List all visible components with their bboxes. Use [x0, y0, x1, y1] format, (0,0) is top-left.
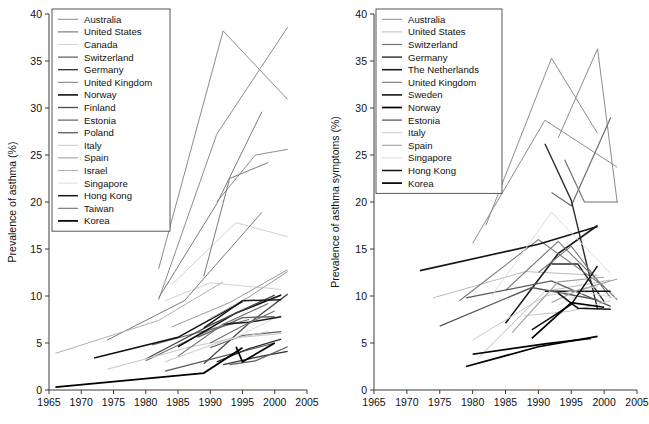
legend-label-poland: Poland	[84, 127, 114, 138]
y-tick-label: 40	[355, 8, 367, 20]
legend-label-united-kingdom: United Kingdom	[408, 77, 476, 88]
x-tick-label: 1975	[102, 396, 126, 408]
y-axis-title: Prevalence of asthma (%)	[6, 142, 18, 263]
x-tick-label: 1985	[166, 396, 190, 408]
legend-label-korea: Korea	[408, 178, 434, 189]
data-line-canada	[165, 283, 281, 301]
legend-label-germany: Germany	[408, 52, 448, 63]
y-tick-label: 25	[30, 149, 42, 161]
x-tick-label: 2000	[263, 396, 287, 408]
plot-canvas: 0510152025303540196519701975198019851990…	[325, 0, 649, 424]
y-tick-label: 15	[30, 243, 42, 255]
y-tick-label: 0	[361, 384, 367, 396]
y-tick-label: 30	[30, 102, 42, 114]
legend-label-singapore: Singapore	[84, 178, 128, 189]
legend-label-estonia: Estonia	[84, 115, 117, 126]
x-tick-label: 1990	[527, 396, 551, 408]
y-tick-label: 5	[36, 337, 42, 349]
legend-label-finland: Finland	[84, 102, 115, 113]
legend-label-israel: Israel	[84, 165, 107, 176]
plot-canvas: 0510152025303540196519701975198019851990…	[0, 0, 325, 424]
data-line-germany	[545, 144, 598, 309]
legend-label-united-states: United States	[408, 26, 466, 37]
legend-label-sweden: Sweden	[408, 89, 443, 100]
data-line-united-kingdom	[204, 163, 268, 277]
legend: AustraliaUnited StatesCanadaSwitzerlandG…	[52, 9, 170, 231]
legend-label-singapore: Singapore	[408, 152, 452, 163]
legend-label-germany: Germany	[84, 64, 124, 75]
x-tick-label: 1990	[199, 396, 223, 408]
legend-label-australia: Australia	[84, 14, 122, 25]
legend-label-switzerland: Switzerland	[84, 52, 134, 63]
legend-label-the-netherlands: The Netherlands	[408, 64, 479, 75]
y-tick-label: 35	[355, 55, 367, 67]
asthma-prevalence-figure: 0510152025303540196519701975198019851990…	[0, 0, 649, 424]
y-tick-label: 5	[361, 337, 367, 349]
legend-label-hong-kong: Hong Kong	[84, 190, 132, 201]
y-tick-label: 0	[36, 384, 42, 396]
x-tick-label: 1980	[134, 396, 158, 408]
panel-asthma-symptoms: 0510152025303540196519701975198019851990…	[325, 0, 649, 424]
legend-label-spain: Spain	[408, 140, 433, 151]
data-line-australia	[486, 58, 598, 225]
data-line-spain	[210, 272, 287, 319]
x-tick-label: 1970	[70, 396, 94, 408]
y-tick-label: 40	[30, 8, 42, 20]
legend-label-korea: Korea	[84, 215, 110, 226]
legend-label-taiwan: Taiwan	[84, 203, 114, 214]
data-line-australia	[217, 149, 288, 202]
legend-label-estonia: Estonia	[408, 115, 441, 126]
x-tick-label: 1995	[231, 396, 255, 408]
legend-label-italy: Italy	[408, 127, 426, 138]
data-line-australia	[159, 31, 288, 269]
y-tick-label: 35	[30, 55, 42, 67]
x-tick-label: 1975	[428, 396, 452, 408]
y-tick-label: 10	[355, 290, 367, 302]
legend-label-switzerland: Switzerland	[408, 39, 458, 50]
y-tick-label: 20	[30, 196, 42, 208]
x-tick-label: 1965	[37, 396, 61, 408]
x-tick-label: 2005	[625, 396, 649, 408]
y-tick-label: 20	[355, 196, 367, 208]
legend: AustraliaUnited StatesSwitzerlandGermany…	[376, 9, 502, 193]
data-line-estonia	[466, 281, 611, 306]
data-line-australia	[159, 27, 288, 300]
legend-label-united-states: United States	[84, 26, 142, 37]
data-line-switzerland	[565, 160, 618, 202]
panel-asthma-prevalence: 0510152025303540196519701975198019851990…	[0, 0, 325, 424]
data-line-australia	[558, 49, 617, 203]
data-line-united-kingdom	[159, 112, 262, 298]
legend-label-italy: Italy	[84, 140, 102, 151]
x-tick-label: 1970	[395, 396, 419, 408]
y-tick-label: 30	[355, 102, 367, 114]
legend-label-norway: Norway	[408, 102, 441, 113]
legend-label-spain: Spain	[84, 152, 109, 163]
data-line-norway	[466, 336, 598, 366]
x-tick-label: 2005	[295, 396, 319, 408]
x-tick-label: 2000	[592, 396, 616, 408]
y-tick-label: 25	[355, 149, 367, 161]
x-tick-label: 1965	[362, 396, 386, 408]
x-tick-label: 1980	[461, 396, 485, 408]
legend-label-australia: Australia	[408, 14, 446, 25]
legend-label-hong-kong: Hong Kong	[408, 165, 456, 176]
legend-label-canada: Canada	[84, 39, 118, 50]
x-tick-label: 1995	[560, 396, 584, 408]
x-tick-label: 1985	[494, 396, 518, 408]
data-line-finland	[146, 295, 275, 359]
y-tick-label: 10	[30, 290, 42, 302]
legend-label-norway: Norway	[84, 89, 117, 100]
data-line-korea	[236, 343, 275, 362]
y-axis-title: Prevalence of asthma symptoms (%)	[329, 116, 341, 288]
data-line-canada	[172, 223, 288, 285]
legend-label-united-kingdom: United Kingdom	[84, 77, 152, 88]
y-tick-label: 15	[355, 243, 367, 255]
